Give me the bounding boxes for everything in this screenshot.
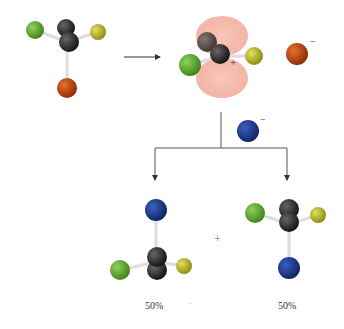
blue-atom <box>145 199 167 221</box>
product-2-percent: 50% <box>278 300 296 311</box>
carbon-atom <box>147 247 167 267</box>
green-atom <box>26 21 44 39</box>
orange-atom <box>57 78 77 98</box>
green-atom <box>179 54 201 76</box>
yellow-atom <box>176 258 192 274</box>
carbocation <box>179 16 263 98</box>
sn1-diagram: + − − + 50% 50% · <box>0 0 344 329</box>
carbon-atom <box>279 212 299 232</box>
green-atom <box>110 260 130 280</box>
carbon-atom <box>210 44 230 64</box>
leaving-group-charge: − <box>310 36 316 47</box>
leaving-group-atom <box>286 43 308 65</box>
green-atom <box>245 203 265 223</box>
yellow-atom <box>245 47 263 65</box>
blue-atom <box>278 257 300 279</box>
nucleophile-charge: − <box>260 114 266 125</box>
diagram-canvas <box>0 0 344 329</box>
carbon-atom <box>59 32 79 52</box>
reactant-molecule <box>26 19 106 98</box>
product-1-percent: 50% <box>145 300 163 311</box>
plus-sign: + <box>214 232 221 247</box>
nucleophile-atom <box>237 120 259 142</box>
product-1-molecule <box>110 199 192 280</box>
product-2-molecule <box>245 199 326 279</box>
p-orbital-bottom-lobe <box>196 58 248 98</box>
yellow-atom <box>310 207 326 223</box>
yellow-atom <box>90 24 106 40</box>
branch-arrows <box>155 112 287 180</box>
carbocation-charge: + <box>230 56 236 68</box>
dot-mark: · <box>189 298 192 309</box>
